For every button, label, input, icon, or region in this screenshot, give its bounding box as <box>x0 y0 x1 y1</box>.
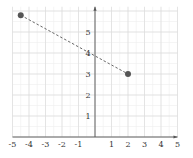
y-tick-label: 2 <box>85 91 90 100</box>
x-tick-labels: -5-4-3-2-112345 <box>9 140 180 149</box>
data-point <box>125 71 131 77</box>
y-tick-label: 1 <box>85 112 90 121</box>
x-tick-label: -1 <box>75 140 83 149</box>
x-tick-label: -5 <box>9 140 17 149</box>
y-tick-label: 5 <box>85 28 90 37</box>
y-tick-label: 3 <box>85 70 90 79</box>
x-tick-label: -4 <box>25 140 33 149</box>
x-tick-label: 1 <box>109 140 114 149</box>
data-point <box>18 12 24 18</box>
x-tick-label: -3 <box>42 140 50 149</box>
x-tick-label: 2 <box>125 140 130 149</box>
dashed-segment <box>21 15 128 74</box>
y-axis-arrow-icon <box>93 7 96 11</box>
x-tick-label: 5 <box>175 140 180 149</box>
data-points <box>18 12 131 77</box>
y-tick-labels: 12345 <box>85 28 90 121</box>
dashed-line-segment <box>21 15 128 74</box>
x-axis-arrow-icon <box>174 135 178 138</box>
x-tick-label: 4 <box>158 140 163 149</box>
x-tick-label: -2 <box>58 140 66 149</box>
x-tick-label: 3 <box>142 140 147 149</box>
coordinate-plane-chart: -5-4-3-2-112345 12345 <box>0 0 193 158</box>
